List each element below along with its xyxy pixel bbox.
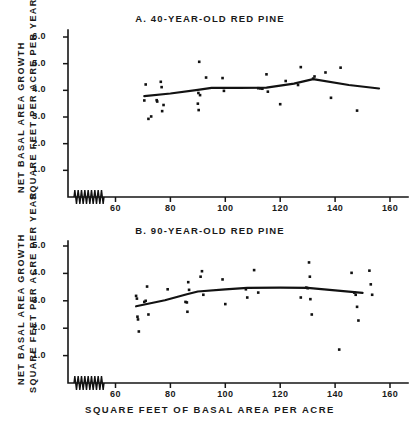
data-point — [223, 90, 226, 93]
x-axis-label: SQUARE FEET OF BASAL AREA PER ACRE — [0, 404, 420, 415]
data-point — [368, 269, 371, 272]
data-point — [137, 318, 140, 321]
panel-a-ytick-label: 1.0 — [22, 164, 46, 174]
panel-b-ytick-label: 2.0 — [22, 322, 46, 332]
data-point — [310, 313, 313, 316]
data-point — [253, 269, 256, 272]
data-point — [279, 103, 282, 106]
data-point — [313, 75, 316, 78]
panel-b-ytick-label: 1.0 — [22, 350, 46, 360]
data-point — [309, 298, 312, 301]
panel-b-xtick-label: 100 — [205, 389, 245, 399]
data-point — [267, 90, 270, 93]
panel-a-xtick-label: 140 — [315, 203, 355, 213]
data-point — [197, 102, 200, 105]
data-point — [371, 293, 374, 296]
data-point — [198, 61, 201, 64]
panel-a-xtick-label: 80 — [150, 203, 190, 213]
data-point — [199, 94, 202, 97]
data-point — [299, 66, 302, 69]
panel-a-ytick-label: 5.0 — [22, 58, 46, 68]
panel-a-ytick-label: 6.0 — [22, 31, 46, 41]
panel-b-xtick-label: 80 — [150, 389, 190, 399]
data-point — [135, 295, 138, 298]
data-point — [156, 100, 159, 103]
data-point — [265, 73, 268, 76]
data-point — [369, 283, 372, 286]
data-point — [356, 306, 359, 309]
data-point — [144, 83, 147, 86]
panel-b-xtick-label: 160 — [370, 389, 410, 399]
panel-b-chart: B. 90-YEAR-OLD RED PINE NET BASAL AREA G… — [0, 215, 420, 428]
data-point — [161, 110, 164, 113]
data-point — [356, 109, 359, 112]
data-point — [205, 76, 208, 79]
data-point — [221, 77, 224, 80]
data-point — [150, 115, 153, 118]
data-point — [143, 99, 146, 102]
panel-b-ytick-label: 4.0 — [22, 267, 46, 277]
panel-a-ytick-label: 3.0 — [22, 111, 46, 121]
figure-container: A. 40-YEAR-OLD RED PINE NET BASAL AREA G… — [0, 0, 420, 428]
data-point — [187, 281, 190, 284]
data-point — [350, 272, 353, 275]
data-point — [186, 301, 189, 304]
data-point — [354, 293, 357, 296]
data-point — [147, 118, 150, 121]
data-point — [160, 86, 163, 89]
data-point — [162, 104, 165, 107]
data-point — [136, 297, 139, 300]
data-point — [324, 71, 327, 74]
panel-b-xtick-label: 60 — [96, 389, 136, 399]
data-point — [257, 291, 260, 294]
panel-b-xtick-label: 120 — [260, 389, 300, 399]
data-point — [188, 289, 191, 292]
data-point — [147, 313, 150, 316]
data-point — [186, 310, 189, 313]
data-point — [202, 293, 205, 296]
panel-a-plot-area — [0, 0, 420, 215]
data-point — [166, 288, 169, 291]
fit-curve — [144, 79, 379, 96]
data-point — [136, 315, 139, 318]
data-point — [284, 80, 287, 83]
data-point — [201, 270, 204, 273]
panel-a-xtick-label: 60 — [96, 203, 136, 213]
panel-a-chart: A. 40-YEAR-OLD RED PINE NET BASAL AREA G… — [0, 0, 420, 215]
data-point — [199, 275, 202, 278]
data-point — [144, 300, 147, 303]
panel-a-xtick-label: 120 — [260, 203, 300, 213]
panel-a-xtick-label: 160 — [370, 203, 410, 213]
data-point — [339, 66, 342, 69]
data-point — [246, 296, 249, 299]
panel-a-xtick-label: 100 — [205, 203, 245, 213]
panel-b-ytick-label: 3.0 — [22, 295, 46, 305]
data-point — [299, 296, 302, 299]
panel-b-xtick-label: 140 — [315, 389, 355, 399]
data-point — [159, 81, 162, 84]
panel-b-ytick-label: 5.0 — [22, 240, 46, 250]
data-point — [221, 278, 224, 281]
panel-a-ytick-label: 2.0 — [22, 138, 46, 148]
data-point — [297, 84, 300, 87]
data-point — [308, 261, 311, 264]
data-point — [224, 303, 227, 306]
data-point — [330, 97, 333, 100]
data-point — [138, 330, 141, 333]
data-point — [357, 319, 360, 322]
data-point — [338, 348, 341, 351]
panel-a-ytick-label: 4.0 — [22, 84, 46, 94]
data-point — [309, 275, 312, 278]
fit-curve — [136, 288, 362, 307]
data-point — [146, 285, 149, 288]
data-point — [197, 109, 200, 112]
